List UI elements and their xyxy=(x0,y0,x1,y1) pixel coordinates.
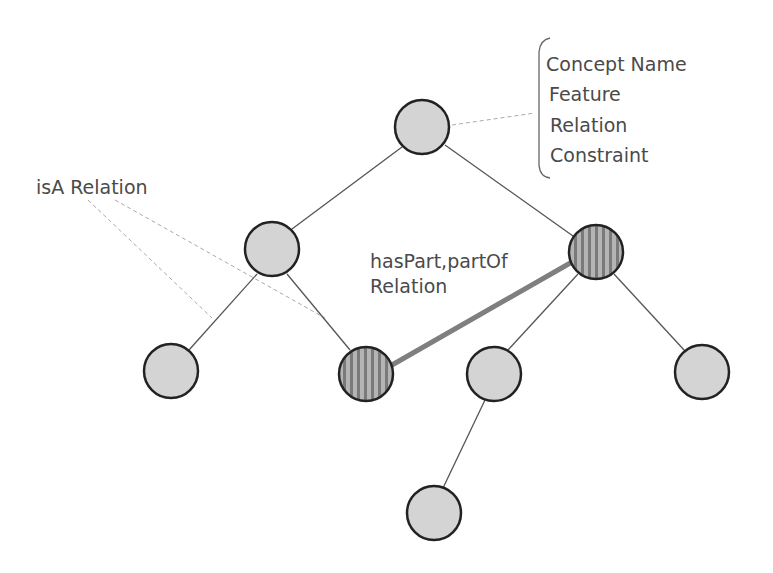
node-l3-a[interactable] xyxy=(407,486,461,540)
haspart-label-line2: Relation xyxy=(370,275,447,297)
concept-annotation-line xyxy=(452,113,535,125)
concept-tree-diagram: Concept Name Feature Relation Constraint… xyxy=(0,0,773,573)
edge-root-l1-left xyxy=(292,147,402,229)
node-l2-d[interactable] xyxy=(675,345,729,399)
node-l1-right-striped[interactable] xyxy=(569,225,623,279)
isa-relation-label: isA Relation xyxy=(36,176,148,198)
edge-l1-right-l2-c xyxy=(508,274,578,350)
haspart-label-line1: hasPart,partOf xyxy=(370,250,509,272)
node-l2-a[interactable] xyxy=(144,344,198,398)
node-l2-b-striped[interactable] xyxy=(339,347,393,401)
isa-edges xyxy=(189,145,685,488)
edge-l1-left-l2-b xyxy=(287,274,350,350)
isa-annotation-line-1 xyxy=(88,200,212,318)
annotation-lines xyxy=(88,113,535,318)
concept-box: Concept Name Feature Relation Constraint xyxy=(546,53,687,166)
edge-l1-left-l2-a xyxy=(189,274,257,350)
edge-l2-c-l3-a xyxy=(443,400,485,488)
constraint-label: Constraint xyxy=(550,144,649,166)
haspart-label: hasPart,partOf Relation xyxy=(370,250,509,297)
concept-name-label: Concept Name xyxy=(546,53,687,75)
feature-label: Feature xyxy=(549,83,621,105)
node-root[interactable] xyxy=(395,100,449,154)
node-l2-c[interactable] xyxy=(467,347,521,401)
nodes xyxy=(144,100,729,540)
relation-label: Relation xyxy=(550,114,627,136)
edge-l1-right-l2-d xyxy=(614,274,685,351)
node-l1-left[interactable] xyxy=(245,222,299,276)
